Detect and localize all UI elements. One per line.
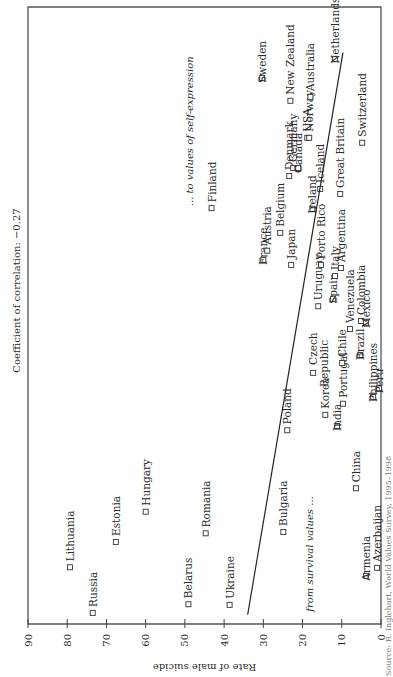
point-marker [289,262,294,267]
data-point: Lithuania [64,511,76,570]
point-marker [360,140,365,145]
data-point: Canada [292,133,304,173]
point-marker [338,265,343,270]
data-point: CzechRepublic [307,332,330,387]
point-label: Hungary [140,459,152,506]
tick-label: 50 [179,634,190,647]
data-point: Sweden [256,41,268,83]
point-label: Portugal [337,352,349,398]
point-label: Belgium [274,183,286,227]
point-marker [323,412,328,417]
data-point: India [331,404,343,431]
point-label: Canada [292,133,304,173]
point-marker [311,370,316,375]
data-point: Russia [87,572,99,616]
data-point: Porto Rico [315,204,327,268]
point-label: Russia [87,572,99,607]
scatter-chart: 9080706050403020100 LithuaniaRussiaEston… [0,0,393,677]
point-label: Peru [373,368,385,393]
point-label: India [331,404,343,431]
tick-label: 90 [23,634,34,647]
point-label: Argentina [335,209,347,263]
data-point: New Zealand [284,24,296,103]
point-label: Azerbaijan [371,505,383,563]
point-marker [285,428,290,433]
point-label: Finland [206,161,218,202]
data-point: Great Britain [334,118,346,197]
point-marker [338,191,343,196]
point-marker [307,135,312,140]
point-marker [67,565,72,570]
point-marker [281,530,286,535]
tick-label: 60 [140,634,151,647]
correlation-coefficient: Coefficient of correlation: −0.27 [11,208,22,372]
point-label: Brazil [354,328,366,360]
point-marker [308,95,313,100]
point-marker [287,174,292,179]
data-point: Bulgaria [277,481,289,535]
point-marker [203,531,208,536]
data-point: China [350,451,362,491]
data-point: Portugal [337,352,349,406]
data-point: Mexico [360,289,372,327]
y-axis-title: Rate of male suicide [153,662,256,673]
point-label: Sweden [256,41,268,83]
data-point: Finland [206,161,218,210]
tick-label: 30 [258,634,269,647]
data-point: Poland [281,388,293,433]
point-marker [143,509,148,514]
point-label: Mexico [360,289,372,327]
y-axis-ticks: 9080706050403020100 [23,619,387,647]
point-marker [316,304,321,309]
data-point: Romania [200,480,212,535]
annotation-survival: from survival values ... [304,496,315,612]
tick-label: 80 [62,634,73,647]
point-marker [113,539,118,544]
data-point: Azerbaijan [371,505,383,571]
point-marker [348,327,353,332]
point-label: New Zealand [284,24,296,95]
data-point: Japan [285,228,297,267]
point-label: Chile [336,329,348,357]
data-point: Peru [373,368,385,393]
data-point: Argentina [335,209,347,270]
point-label: Lithuania [64,511,76,562]
point-label: Romania [200,480,212,527]
data-point: Estonia [110,496,122,544]
data-point: Netherlands [329,0,341,64]
point-marker [278,230,283,235]
point-marker [209,206,214,211]
point-marker [333,274,338,279]
tick-label: 10 [336,634,347,647]
point-marker [353,486,358,491]
data-point: Belgium [274,183,286,236]
point-marker [265,248,270,253]
point-label: Porto Rico [315,204,327,259]
point-label: Republic [318,340,330,387]
point-label: Belarus [182,558,194,599]
point-label: Bulgaria [277,481,289,526]
point-label: Estonia [110,496,122,536]
data-point: Hungary [140,459,152,514]
point-marker [340,361,345,366]
point-label: Australia [304,43,316,92]
point-label: Japan [285,228,297,259]
point-label: Netherlands [329,0,341,64]
point-label: Austria [261,206,273,246]
point-label: Uruguay [312,254,324,300]
point-marker [90,610,95,615]
tick-label: 70 [101,634,112,647]
annotation-self-expression: ... to values of self-expression [184,56,195,206]
point-label: Great Britain [334,118,346,188]
tick-label: 20 [297,634,308,647]
point-label: China [350,451,362,482]
data-point: Brazil [354,328,366,360]
data-points: LithuaniaRussiaEstoniaHungaryBelarusRoma… [64,0,385,615]
tick-label: 40 [219,634,230,647]
point-marker [227,602,232,607]
point-label: Ukraine [224,556,236,599]
point-marker [186,602,191,607]
point-marker [340,401,345,406]
data-point: Belarus [182,558,194,607]
data-point: Australia [304,43,316,100]
